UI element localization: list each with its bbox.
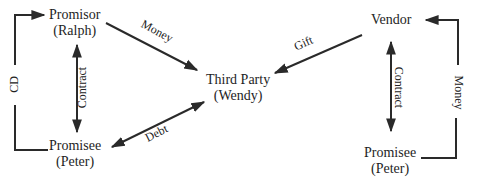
promisee-right-title: Promisee	[364, 145, 416, 161]
promisee-right-name: (Peter)	[364, 161, 416, 177]
label-contract-right: Contract	[391, 67, 406, 108]
node-promisee-right: Promisee (Peter)	[364, 145, 416, 177]
cd-arrow-upper	[15, 15, 44, 65]
label-contract-left: Contract	[75, 67, 90, 108]
promisor-title: Promisor	[49, 7, 100, 23]
node-vendor: Vendor	[371, 12, 411, 28]
vendor-title: Vendor	[371, 12, 411, 28]
money-arrow-right-lower	[421, 118, 456, 158]
label-money-right: Money	[451, 76, 466, 110]
node-promisor: Promisor (Ralph)	[49, 7, 100, 39]
third-party-title: Third Party	[206, 72, 270, 88]
node-promisee-left: Promisee (Peter)	[49, 138, 101, 170]
money-arrow-right-upper	[426, 20, 458, 65]
label-cd: CD	[7, 76, 22, 93]
promisor-name: (Ralph)	[49, 23, 100, 39]
promisee-title: Promisee	[49, 138, 101, 154]
cd-arrow	[15, 105, 48, 150]
node-third-party: Third Party (Wendy)	[206, 72, 270, 104]
promisee-name: (Peter)	[49, 154, 101, 170]
gift-arrow	[275, 35, 362, 73]
third-party-name: (Wendy)	[206, 88, 270, 104]
